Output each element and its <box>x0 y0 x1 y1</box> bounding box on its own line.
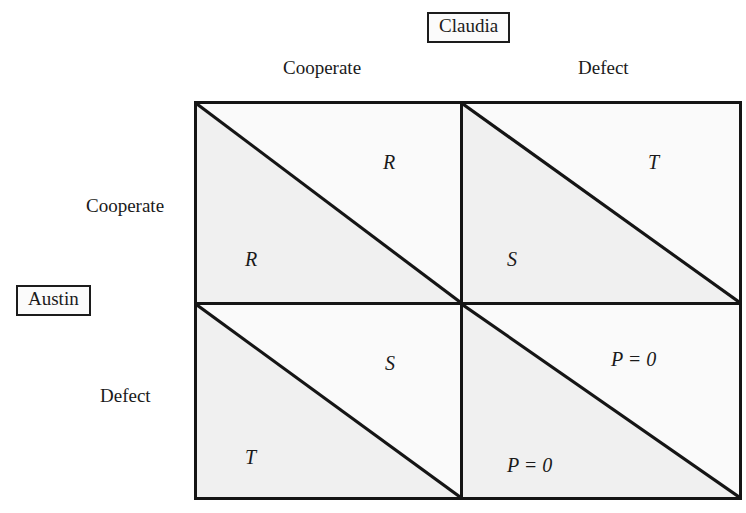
payoff-column-player: R <box>383 152 395 172</box>
payoff-row-player: S <box>507 249 517 269</box>
column-header-cooperate: Cooperate <box>283 58 361 79</box>
cell-diagonal-split <box>463 305 739 497</box>
payoff-column-player: T <box>648 152 659 172</box>
cell-cooperate-cooperate: R R <box>194 101 463 305</box>
cell-defect-cooperate: S T <box>194 302 463 500</box>
matrix-grid: R R T S S T P = 0 <box>194 101 742 500</box>
row-header-cooperate: Cooperate <box>86 196 164 217</box>
cell-diagonal-split <box>197 305 460 497</box>
payoff-row-player: R <box>245 249 257 269</box>
payoff-row-player: P = 0 <box>507 455 552 475</box>
column-player-label: Claudia <box>427 12 510 43</box>
row-header-defect: Defect <box>100 386 151 407</box>
payoff-matrix-figure: Claudia Austin Cooperate Defect Cooperat… <box>0 0 746 513</box>
cell-diagonal-split <box>197 104 460 302</box>
cell-defect-defect: P = 0 P = 0 <box>460 302 742 500</box>
payoff-row-player: T <box>245 447 256 467</box>
cell-cooperate-defect: T S <box>460 101 742 305</box>
payoff-column-player: P = 0 <box>611 349 656 369</box>
column-header-defect: Defect <box>578 58 629 79</box>
row-player-label: Austin <box>16 285 91 316</box>
cell-diagonal-split <box>463 104 739 302</box>
payoff-column-player: S <box>385 353 395 373</box>
